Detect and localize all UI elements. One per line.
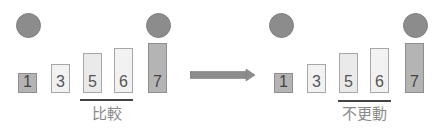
bar-label: 5	[344, 74, 353, 90]
no-change-underline	[338, 100, 391, 102]
bar-label: 1	[279, 74, 288, 90]
bar-5: 5	[339, 53, 358, 93]
left-pointer-circle	[269, 13, 294, 38]
bar-label: 3	[312, 74, 321, 90]
bar-6: 6	[370, 48, 389, 93]
right-pointer-circle	[403, 13, 428, 38]
bar-7: 7	[405, 43, 424, 93]
bar-label: 7	[410, 74, 419, 90]
after-panel: 1 3 5 6 7 不更動	[0, 0, 441, 133]
bar-1: 1	[274, 73, 293, 93]
bar-label: 6	[375, 74, 384, 90]
bar-3: 3	[307, 64, 326, 93]
caption-no-change: 不更動	[342, 107, 387, 122]
